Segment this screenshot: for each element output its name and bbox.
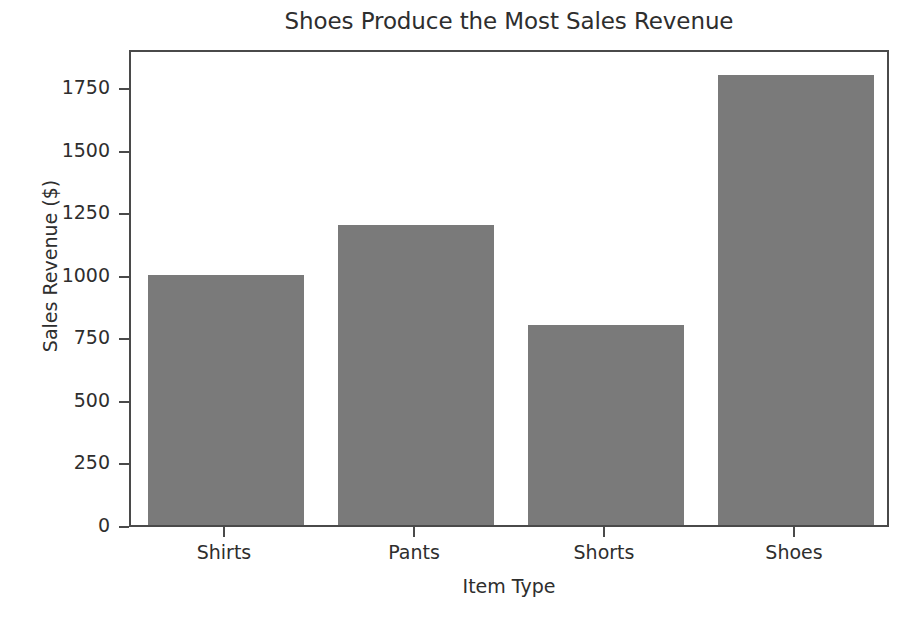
y-tick-label: 1250 xyxy=(30,201,110,223)
y-tick-mark xyxy=(119,338,129,340)
bar-shorts xyxy=(528,325,684,525)
bars-layer xyxy=(131,52,887,525)
y-tick-label: 0 xyxy=(30,514,110,536)
x-tick-mark xyxy=(223,527,225,537)
y-tick-label: 750 xyxy=(30,326,110,348)
y-tick-mark xyxy=(119,151,129,153)
x-axis-label: Item Type xyxy=(129,575,889,597)
x-tick-label-pants: Pants xyxy=(344,541,484,563)
y-tick-label: 1000 xyxy=(30,264,110,286)
chart-figure: Shoes Produce the Most Sales Revenue Sal… xyxy=(0,0,909,624)
y-tick-label: 250 xyxy=(30,451,110,473)
x-tick-label-shorts: Shorts xyxy=(534,541,674,563)
bar-shirts xyxy=(148,275,304,525)
y-tick-label: 500 xyxy=(30,389,110,411)
bar-shoes xyxy=(718,75,874,525)
y-tick-label: 1500 xyxy=(30,139,110,161)
y-tick-mark xyxy=(119,463,129,465)
bar-pants xyxy=(338,225,494,525)
y-tick-mark xyxy=(119,276,129,278)
y-tick-mark xyxy=(119,88,129,90)
x-tick-mark xyxy=(793,527,795,537)
x-tick-mark xyxy=(603,527,605,537)
y-tick-mark xyxy=(119,401,129,403)
plot-area xyxy=(129,50,889,527)
x-tick-label-shoes: Shoes xyxy=(724,541,864,563)
x-tick-label-shirts: Shirts xyxy=(154,541,294,563)
y-tick-label: 1750 xyxy=(30,76,110,98)
y-tick-mark xyxy=(119,526,129,528)
chart-title: Shoes Produce the Most Sales Revenue xyxy=(129,8,889,34)
y-tick-mark xyxy=(119,213,129,215)
x-tick-mark xyxy=(413,527,415,537)
